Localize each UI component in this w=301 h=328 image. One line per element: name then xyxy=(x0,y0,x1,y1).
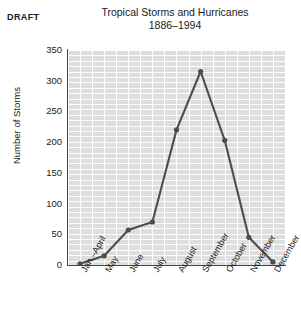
y-tick-label: 100 xyxy=(28,198,62,209)
y-axis-label: Number of Storms xyxy=(11,66,22,186)
y-tick-label: 50 xyxy=(28,228,62,239)
data-point xyxy=(198,69,203,74)
data-point xyxy=(150,219,155,224)
chart-container: Number of Storms 350300250200150100500 J… xyxy=(0,0,301,328)
y-tick-label: 250 xyxy=(28,105,62,116)
plot-area xyxy=(68,50,285,265)
line-path xyxy=(80,72,273,264)
y-tick-label: 350 xyxy=(28,44,62,55)
data-point-markers xyxy=(77,69,275,265)
data-point xyxy=(174,127,179,132)
y-tick-label: 300 xyxy=(28,75,62,86)
data-series-line xyxy=(68,50,285,265)
y-axis-ticks: 350300250200150100500 xyxy=(28,0,62,328)
data-point xyxy=(222,138,227,143)
data-point xyxy=(102,253,107,258)
y-axis-line xyxy=(67,49,68,266)
data-point xyxy=(126,227,131,232)
y-tick-label: 200 xyxy=(28,136,62,147)
y-tick-label: 0 xyxy=(28,259,62,270)
y-tick-label: 150 xyxy=(28,167,62,178)
data-point xyxy=(246,235,251,240)
